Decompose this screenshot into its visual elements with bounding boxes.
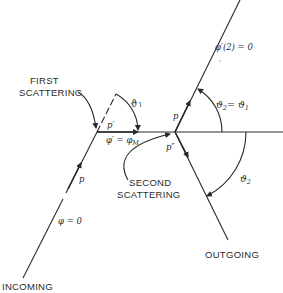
incoming-label: INCOMING bbox=[2, 282, 53, 292]
first-scattering-label-line2: SCATTERING bbox=[19, 88, 83, 98]
phi-prime-2-label: φ′(2) = 0 bbox=[215, 43, 253, 52]
p-double-prime-arrow bbox=[175, 132, 188, 157]
p-incoming-label: p bbox=[79, 175, 84, 184]
first-scattering-label-line1: FIRST bbox=[30, 76, 59, 86]
stray-dot bbox=[219, 60, 220, 61]
second-scattering-label-line2: SCATTERING bbox=[117, 190, 181, 200]
p-double-prime-label: p″ bbox=[166, 143, 175, 152]
p-out-label: p bbox=[173, 112, 178, 121]
theta2-eq-theta1-label: ϑ2= ϑ1 bbox=[216, 100, 249, 112]
second-scattering-label-line1: SECOND bbox=[129, 178, 171, 188]
theta2-label: ϑ2 bbox=[240, 174, 251, 186]
phi-incoming-label: φ = 0 bbox=[58, 217, 82, 226]
p-prime-label: p′ bbox=[107, 121, 114, 130]
theta2-arc bbox=[207, 132, 246, 196]
incoming-line-lower bbox=[23, 199, 63, 278]
phi-prime-label: φ′ = φM bbox=[106, 136, 139, 147]
outgoing-label: OUTGOING bbox=[205, 250, 259, 260]
